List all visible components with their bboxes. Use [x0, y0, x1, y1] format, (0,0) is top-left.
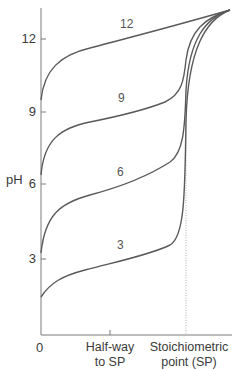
- y-tick-label-9: 9: [6, 104, 36, 119]
- x-tick-label-sp: Stoichiometric point (SP): [146, 340, 232, 370]
- y-tick-label-3: 3: [6, 251, 36, 266]
- curve-label-6: 6: [117, 165, 124, 179]
- y-axis-label: pH: [6, 172, 23, 187]
- x-tick-label-zero: 0: [36, 340, 43, 355]
- curve-label-12: 12: [120, 17, 133, 31]
- curve-6: [41, 10, 230, 253]
- curve-label-9: 9: [118, 91, 125, 105]
- x-tick-label-halfway: Half-way to SP: [80, 340, 140, 370]
- x-tick-label-halfway-line2: to SP: [80, 355, 140, 370]
- x-tick-label-halfway-line1: Half-way: [80, 340, 140, 355]
- curve-3: [41, 10, 230, 297]
- curve-9: [41, 10, 230, 175]
- y-tick-label-12: 12: [6, 31, 36, 46]
- x-tick-label-sp-line2: point (SP): [146, 355, 232, 370]
- curve-label-3: 3: [117, 238, 124, 252]
- x-tick-label-sp-line1: Stoichiometric: [146, 340, 232, 355]
- curve-12: [41, 10, 230, 100]
